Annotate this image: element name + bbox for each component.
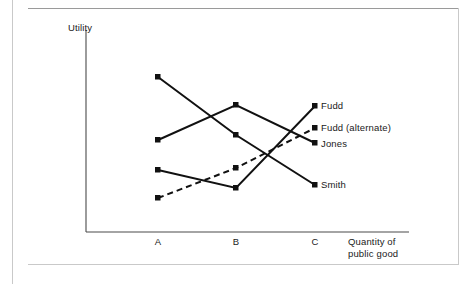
- series-point-fudd-alternate-c: [312, 125, 318, 131]
- series-point-smith-a: [155, 74, 161, 80]
- series-point-jones-b: [233, 102, 239, 108]
- series-label-smith: Smith: [321, 179, 346, 190]
- figure-root: Utility A B C Quantity of public good Fu…: [0, 0, 474, 284]
- series-point-smith-b: [233, 132, 239, 138]
- series-label-jones: Jones: [321, 138, 347, 149]
- series-point-smith-c: [312, 182, 318, 188]
- x-tick-label-a: A: [147, 236, 169, 247]
- series-point-fudd-alternate-a: [155, 195, 161, 201]
- series-point-jones-c: [312, 140, 318, 146]
- x-axis-title: Quantity of public good: [348, 236, 398, 259]
- series-line-fudd: [158, 106, 315, 188]
- x-axis-title-line2: public good: [348, 248, 398, 260]
- x-axis-title-line1: Quantity of: [348, 236, 398, 248]
- series-label-fudd-alternate: Fudd (alternate): [321, 122, 391, 133]
- series-label-fudd: Fudd: [321, 100, 343, 111]
- series-point-fudd-c: [312, 103, 318, 109]
- series-point-fudd-alternate-b: [233, 165, 239, 171]
- x-tick-label-b: B: [225, 236, 247, 247]
- series-point-fudd-a: [155, 167, 161, 173]
- y-axis-title: Utility: [68, 22, 92, 33]
- series-point-fudd-b: [233, 185, 239, 191]
- x-tick-label-c: C: [304, 236, 326, 247]
- series-point-jones-a: [155, 137, 161, 143]
